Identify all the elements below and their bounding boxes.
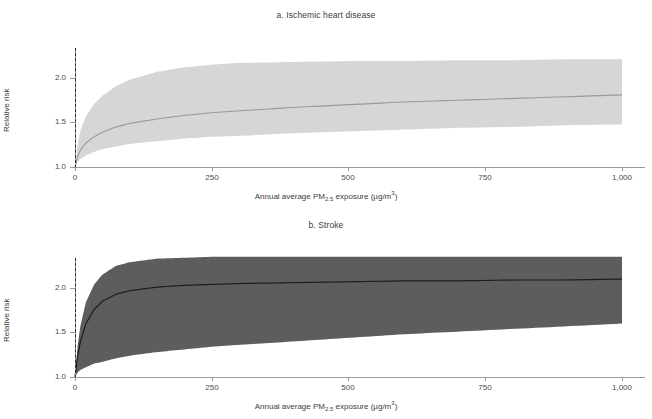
y-tick-label-a-1: 1.5	[38, 117, 66, 126]
x-tick-label-a-4: 1,000	[599, 173, 645, 182]
reference-dashed-line-a	[75, 48, 76, 168]
panel-stroke: b. Stroke Relative risk 2.0 1.5 1.0 0 25…	[0, 210, 652, 419]
x-tick-b-3	[485, 377, 486, 381]
plot-area-b: 2.0 1.5 1.0 0 250 500 750 1,000	[0, 210, 652, 419]
x-tick-label-a-3: 750	[462, 173, 508, 182]
reference-dashed-line-b	[75, 258, 76, 378]
x-tick-label-a-2: 500	[325, 173, 371, 182]
x-tick-a-2	[348, 167, 349, 171]
x-tick-b-4	[622, 377, 623, 381]
x-axis-label-end: )	[395, 192, 398, 201]
panel-ischemic-heart-disease: a. Ischemic heart disease Relative risk …	[0, 0, 652, 209]
x-tick-label-b-3: 750	[462, 383, 508, 392]
uncertainty-band-b	[75, 257, 622, 377]
x-tick-b-2	[348, 377, 349, 381]
y-tick-b-1	[70, 332, 75, 333]
x-tick-a-3	[485, 167, 486, 171]
x-axis-label-prefix: Annual average PM	[255, 192, 325, 201]
x-tick-label-b-4: 1,000	[599, 383, 645, 392]
x-tick-label-b-2: 500	[325, 383, 371, 392]
x-axis-label-end: )	[395, 402, 398, 411]
x-tick-b-0	[75, 377, 76, 381]
x-axis-label-prefix: Annual average PM	[255, 402, 325, 411]
x-tick-label-b-0: 0	[52, 383, 98, 392]
y-tick-b-2	[70, 288, 75, 289]
x-tick-a-1	[212, 167, 213, 171]
plot-area-a: 2.0 1.5 1.0 0 250 500 750 1,000	[0, 0, 652, 209]
x-axis-spine-b	[75, 377, 645, 378]
y-tick-a-1	[70, 122, 75, 123]
x-tick-label-a-0: 0	[52, 173, 98, 182]
y-tick-label-b-2: 2.0	[38, 283, 66, 292]
y-tick-a-2	[70, 78, 75, 79]
x-axis-label-suffix: exposure (µg/m	[333, 192, 391, 201]
x-axis-label-b: Annual average PM2.5 exposure (µg/m3)	[0, 400, 652, 412]
x-tick-label-b-1: 250	[189, 383, 235, 392]
x-tick-a-0	[75, 167, 76, 171]
x-axis-spine-a	[75, 167, 645, 168]
x-tick-a-4	[622, 167, 623, 171]
x-axis-label-suffix: exposure (µg/m	[333, 402, 391, 411]
y-tick-label-b-1: 1.5	[38, 327, 66, 336]
exposure-response-figure: a. Ischemic heart disease Relative risk …	[0, 0, 652, 419]
x-tick-label-a-1: 250	[189, 173, 235, 182]
x-axis-label-a: Annual average PM2.5 exposure (µg/m3)	[0, 190, 652, 202]
y-tick-label-a-2: 2.0	[38, 73, 66, 82]
y-tick-label-b-0: 1.0	[38, 372, 66, 381]
x-tick-b-1	[212, 377, 213, 381]
uncertainty-band-a	[75, 59, 622, 167]
y-tick-label-a-0: 1.0	[38, 162, 66, 171]
